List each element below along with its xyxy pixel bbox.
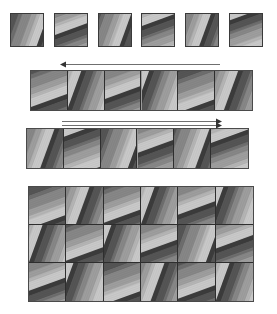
tile-separate-tiles-row-3 bbox=[98, 13, 132, 47]
grid-tile-r1-c5 bbox=[178, 187, 215, 225]
grid-tile-r2-c5 bbox=[178, 225, 215, 263]
strip-row-lower bbox=[26, 128, 249, 169]
grid-tile-r2-c6 bbox=[216, 225, 253, 263]
tile-separate-tiles-row-1 bbox=[10, 13, 44, 47]
tile-strip-row-upper-5 bbox=[178, 71, 215, 110]
arrow-left-above-upper-strip bbox=[60, 60, 220, 69]
arrow-right-above-lower-strip bbox=[62, 121, 222, 130]
tile-strip-row-upper-6 bbox=[215, 71, 252, 110]
tile-strip-row-lower-2 bbox=[64, 129, 101, 168]
grid-tile-r1-c1 bbox=[29, 187, 66, 225]
grid-tile-r3-c3 bbox=[104, 263, 141, 301]
grid-tile-r1-c4 bbox=[141, 187, 178, 225]
grid-tile-r2-c3 bbox=[104, 225, 141, 263]
tile-strip-row-lower-3 bbox=[101, 129, 138, 168]
tile-strip-row-upper-4 bbox=[142, 71, 179, 110]
grid-tile-r1-c6 bbox=[216, 187, 253, 225]
grid-tile-r3-c1 bbox=[29, 263, 66, 301]
texture-tile-figure bbox=[0, 0, 277, 314]
grid-tile-r2-c4 bbox=[141, 225, 178, 263]
grid-tile-r1-c2 bbox=[66, 187, 103, 225]
tile-strip-row-upper-3 bbox=[105, 71, 142, 110]
grid-tile-r3-c4 bbox=[141, 263, 178, 301]
tile-strip-row-lower-4 bbox=[138, 129, 175, 168]
grid-tile-r3-c6 bbox=[216, 263, 253, 301]
grid-block bbox=[28, 186, 254, 302]
grid-tile-r3-c2 bbox=[66, 263, 103, 301]
tile-strip-row-lower-1 bbox=[27, 129, 64, 168]
tile-strip-row-upper-2 bbox=[68, 71, 105, 110]
grid-tile-r2-c2 bbox=[66, 225, 103, 263]
tile-separate-tiles-row-2 bbox=[54, 13, 88, 47]
tile-strip-row-lower-5 bbox=[174, 129, 211, 168]
grid-tile-r2-c1 bbox=[29, 225, 66, 263]
strip-row-upper bbox=[30, 70, 253, 111]
tile-separate-tiles-row-4 bbox=[141, 13, 175, 47]
tile-strip-row-lower-6 bbox=[211, 129, 248, 168]
tile-separate-tiles-row-5 bbox=[185, 13, 219, 47]
tile-strip-row-upper-1 bbox=[31, 71, 68, 110]
tile-separate-tiles-row-6 bbox=[229, 13, 263, 47]
grid-tile-r1-c3 bbox=[104, 187, 141, 225]
grid-tile-r3-c5 bbox=[178, 263, 215, 301]
